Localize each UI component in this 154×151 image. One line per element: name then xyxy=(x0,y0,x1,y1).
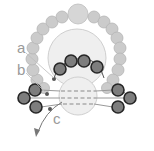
label-a: a xyxy=(17,39,26,56)
label-c: c xyxy=(53,110,61,127)
label-b: b xyxy=(17,61,25,78)
beading-diagram: a b c xyxy=(0,0,154,151)
lower-center-bead xyxy=(59,77,97,115)
top-bead xyxy=(68,4,88,24)
